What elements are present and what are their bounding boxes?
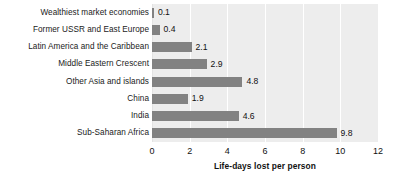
x-tick-label: 4 bbox=[214, 145, 240, 157]
category-label: India bbox=[131, 110, 149, 122]
gridline-8 bbox=[303, 4, 304, 142]
bar bbox=[152, 25, 160, 35]
gridline-12 bbox=[378, 4, 379, 142]
bar-chart: Wealthiest market economiesFormer USSR a… bbox=[0, 0, 394, 179]
bar bbox=[152, 128, 337, 138]
x-tick-label: 2 bbox=[177, 145, 203, 157]
x-tick-label: 12 bbox=[365, 145, 391, 157]
gridline-2 bbox=[190, 4, 191, 142]
category-axis-labels: Wealthiest market economiesFormer USSR a… bbox=[0, 4, 149, 142]
category-label: Latin America and the Caribbean bbox=[28, 41, 149, 53]
bar bbox=[152, 94, 188, 104]
x-tick-label: 0 bbox=[139, 145, 165, 157]
category-label: Sub-Saharan Africa bbox=[77, 127, 149, 139]
category-label: Former USSR and East Europe bbox=[33, 24, 149, 36]
bar bbox=[152, 42, 192, 52]
bar-value-label: 0.1 bbox=[158, 7, 170, 18]
category-label: Other Asia and islands bbox=[66, 76, 149, 88]
category-label: China bbox=[127, 93, 149, 105]
bar-value-label: 2.9 bbox=[211, 59, 223, 70]
bar bbox=[152, 111, 239, 121]
gridline-10 bbox=[340, 4, 341, 142]
x-axis-tick-labels: 024681012 bbox=[152, 145, 378, 159]
plot-area: 0.10.42.12.94.81.94.69.8 bbox=[152, 4, 378, 142]
bar bbox=[152, 77, 242, 87]
x-tick-label: 10 bbox=[327, 145, 353, 157]
gridline-4 bbox=[227, 4, 228, 142]
bar bbox=[152, 8, 154, 18]
x-axis-title: Life-days lost per person bbox=[152, 161, 378, 171]
x-tick-label: 8 bbox=[290, 145, 316, 157]
category-label: Middle Eastern Crescent bbox=[58, 58, 149, 70]
bar-value-label: 9.8 bbox=[341, 128, 353, 139]
category-label: Wealthiest market economies bbox=[40, 7, 149, 19]
gridline-6 bbox=[265, 4, 266, 142]
x-tick-label: 6 bbox=[252, 145, 278, 157]
bar-value-label: 0.4 bbox=[164, 24, 176, 35]
bar-value-label: 4.6 bbox=[243, 111, 255, 122]
bar bbox=[152, 59, 207, 69]
bar-value-label: 2.1 bbox=[196, 42, 208, 53]
bar-value-label: 4.8 bbox=[246, 76, 258, 87]
bar-value-label: 1.9 bbox=[192, 93, 204, 104]
